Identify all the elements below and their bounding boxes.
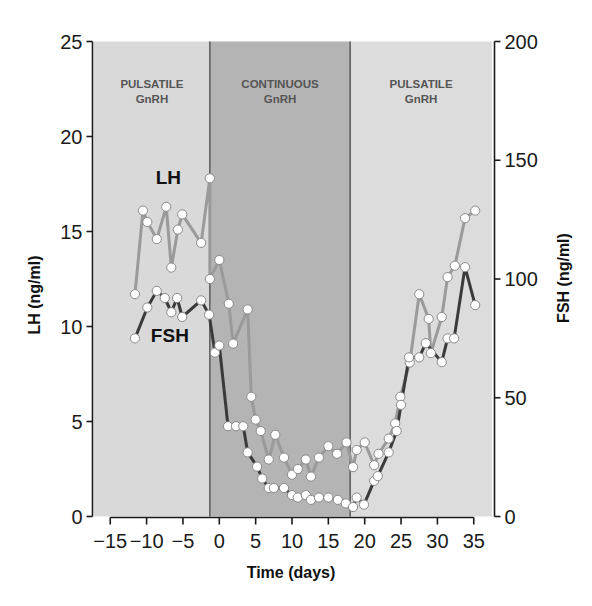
lh-marker [138,206,147,215]
lh-marker [352,445,361,454]
x-tick-label: 20 [354,530,376,552]
lh-marker [205,174,214,183]
lh-marker [450,261,459,270]
region-0 [94,42,210,517]
fsh-marker [373,472,382,481]
x-tick-label: 30 [426,530,448,552]
fsh-series-label: FSH [151,325,189,346]
lh-marker [251,415,260,424]
lh-marker [306,472,315,481]
region-sublabel: GnRH [264,93,297,105]
fsh-marker [471,301,480,310]
lh-marker [332,449,341,458]
fsh-marker [352,493,361,502]
right-y-tick-label: 0 [505,506,516,528]
region-label: PULSATILE [390,78,453,90]
lh-marker [178,210,187,219]
fsh-marker [239,422,248,431]
fsh-marker [258,474,267,483]
x-tick-label: −15 [93,530,127,552]
lh-marker [279,453,288,462]
fsh-marker [460,263,469,272]
fsh-marker [243,448,252,457]
lh-marker [256,426,265,435]
fsh-marker [415,353,424,362]
lh-marker [348,463,357,472]
lh-marker [424,314,433,323]
fsh-marker [215,341,224,350]
lh-marker [384,434,393,443]
lh-marker [443,273,452,282]
fsh-marker [197,296,206,305]
lh-marker [205,274,214,283]
fsh-marker [450,334,459,343]
fsh-marker [279,483,288,492]
left-y-tick-label: 10 [60,316,82,338]
lh-marker [162,202,171,211]
fsh-marker [392,426,401,435]
x-tick-label: 35 [463,530,485,552]
lh-marker [426,349,435,358]
x-tick-label: −5 [172,530,195,552]
lh-marker [173,225,182,234]
lh-marker [360,438,369,447]
fsh-marker [143,303,152,312]
fsh-marker [384,448,393,457]
x-tick-label: 15 [317,530,339,552]
lh-marker [293,464,302,473]
fsh-marker [160,293,169,302]
region-2 [350,42,492,517]
lh-marker [374,449,383,458]
fsh-marker [178,312,187,321]
fsh-marker [314,493,323,502]
region-label: PULSATILE [120,78,183,90]
left-y-tick-label: 20 [60,126,82,148]
lh-series-label: LH [156,167,181,188]
right-y-tick-label: 150 [505,149,538,171]
lh-marker [229,339,238,348]
x-tick-label: −10 [130,530,164,552]
right-y-tick-label: 200 [505,31,538,53]
x-tick-label: 0 [214,530,225,552]
fsh-marker [130,334,139,343]
lh-marker [215,255,224,264]
lh-marker [197,238,206,247]
fsh-marker [269,483,278,492]
fsh-marker [152,286,161,295]
lh-marker [437,312,446,321]
region-sublabel: GnRH [405,93,438,105]
treatment-regions: PULSATILEGnRHCONTINUOUSGnRHPULSATILEGnRH [94,42,492,517]
left-y-tick-label: 25 [60,31,82,53]
lh-marker [415,290,424,299]
region-sublabel: GnRH [136,93,169,105]
fsh-marker [324,493,333,502]
x-tick-label: 10 [281,530,303,552]
left-y-axis-title: LH (ng/ml) [26,255,43,334]
lh-marker [224,299,233,308]
right-y-tick-label: 50 [505,387,527,409]
lh-marker [243,305,252,314]
fsh-marker [205,310,214,319]
left-y-tick-label: 5 [71,411,82,433]
lh-marker [247,392,256,401]
lh-marker [130,290,139,299]
lh-marker [314,453,323,462]
lh-marker [152,235,161,244]
x-tick-label: 5 [250,530,261,552]
fsh-marker [404,353,413,362]
x-axis-title: Time (days) [247,564,336,581]
fsh-marker [173,293,182,302]
lh-marker [264,455,273,464]
lh-marker [370,461,379,470]
lh-marker [324,442,333,451]
fsh-marker [348,502,357,511]
right-y-tick-label: 100 [505,268,538,290]
lh-marker [167,263,176,272]
fsh-marker [421,339,430,348]
lh-marker [301,455,310,464]
lh-marker [271,430,280,439]
lh-marker [342,438,351,447]
fsh-marker [437,358,446,367]
fsh-marker [253,462,262,471]
fsh-marker [396,400,405,409]
